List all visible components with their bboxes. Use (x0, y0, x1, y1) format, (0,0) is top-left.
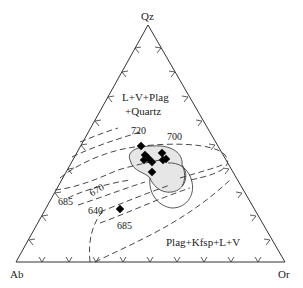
isotherm-label-640: 640 (88, 205, 103, 216)
bottom-edge-ticks (39, 257, 261, 262)
field-label-upper-2: +Quartz (125, 105, 161, 117)
right-edge-ticks (155, 47, 270, 245)
isotherm-label-670: 670 (87, 181, 105, 198)
isotherm-label-685-left: 685 (58, 196, 73, 207)
isotherm-label-720: 720 (131, 125, 146, 136)
data-point (116, 205, 124, 213)
vertex-label-ab: Ab (10, 268, 24, 280)
isotherm-label-700: 700 (167, 131, 182, 142)
left-edge-ticks (29, 47, 141, 245)
ternary-diagram: Qz Ab Or L+V+Plag +Quartz Plag+Kfsp+L+V … (0, 0, 303, 288)
field-label-upper-1: L+V+Plag (122, 91, 169, 103)
field-label-lower: Plag+Kfsp+L+V (166, 236, 240, 248)
vertex-label-qz: Qz (141, 10, 154, 22)
ternary-triangle (16, 25, 285, 262)
isotherm-label-685-lower: 685 (117, 220, 132, 231)
vertex-label-or: Or (278, 268, 290, 280)
